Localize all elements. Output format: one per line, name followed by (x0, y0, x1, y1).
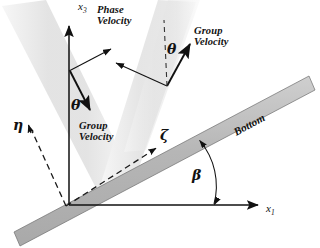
beta-angle-arc (200, 140, 218, 204)
x3-axis-label: x3 (78, 1, 87, 15)
group-velocity-right-line1: Group (194, 25, 229, 36)
beta-arc-path (200, 141, 216, 204)
zeta-axis-tip (150, 148, 156, 152)
group-velocity-label-right: Group Velocity (194, 25, 229, 47)
beta-angle-label: β (192, 168, 201, 183)
zeta-axis-label: ζ (160, 128, 168, 143)
x1-axis-label: x1 (266, 203, 275, 217)
group-velocity-left-line2: Velocity (79, 131, 114, 142)
theta-left-angle-label: θ (71, 98, 80, 113)
eta-axis-line (32, 131, 66, 206)
group-velocity-label-left: Group Velocity (79, 120, 114, 142)
phase-velocity-label: Phase Velocity (97, 4, 132, 26)
phase-velocity-label-line1: Phase (97, 4, 132, 15)
phase-velocity-label-line2: Velocity (97, 15, 132, 26)
eta-axis-label: η (13, 118, 23, 133)
figure-root: x3 x1 ζ η β θ θ Phase Velocity Group Vel… (0, 0, 320, 248)
group-velocity-left-line1: Group (79, 120, 114, 131)
group-velocity-right-line2: Velocity (194, 36, 229, 47)
theta-right-angle-label: θ (167, 42, 176, 57)
eta-axis-tip (29, 125, 32, 133)
